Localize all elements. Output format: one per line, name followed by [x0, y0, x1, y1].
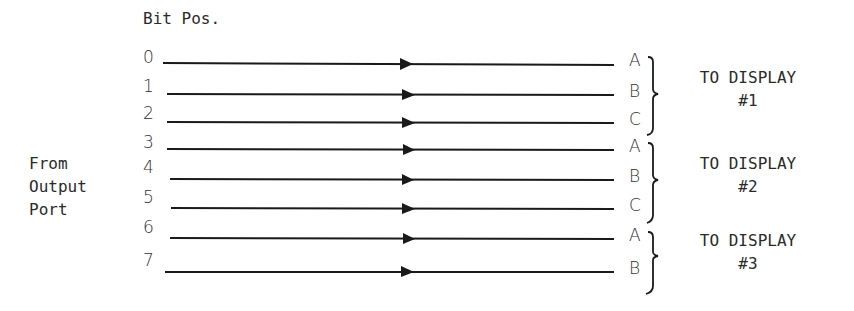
display-1-label: TO DISPLAY #1	[688, 66, 808, 112]
display-1-number: #1	[688, 89, 808, 112]
arrow-icon-bit-4	[402, 174, 414, 185]
wire-bit-6	[170, 238, 614, 239]
display-1-title: TO DISPLAY	[688, 66, 808, 89]
arrow-icon-bit-7	[401, 266, 414, 277]
wire-bit-4	[170, 179, 614, 180]
display-3-title: TO DISPLAY	[688, 229, 808, 252]
arrow-icon-bit-6	[403, 233, 415, 244]
display-3-number: #3	[688, 252, 808, 275]
arrow-icon-bit-3	[403, 144, 415, 155]
display-2-title: TO DISPLAY	[688, 152, 808, 175]
arrow-icon-bit-1	[402, 89, 415, 100]
display-2-number: #2	[688, 175, 808, 198]
brace-icon-display-2	[647, 143, 658, 223]
brace-icon-display-1	[647, 57, 658, 135]
wire-bit-2	[167, 122, 614, 123]
wire-bit-1	[167, 94, 614, 95]
wire-bit-0	[163, 63, 614, 65]
wire-bit-3	[167, 149, 614, 150]
arrow-icon-bit-5	[402, 203, 415, 214]
arrow-icon-bit-2	[402, 117, 415, 128]
wire-bit-5	[171, 208, 614, 209]
display-2-label: TO DISPLAY #2	[688, 152, 808, 198]
display-3-label: TO DISPLAY #3	[688, 229, 808, 275]
brace-icon-display-3	[646, 232, 658, 294]
arrow-icon-bit-0	[400, 58, 413, 70]
